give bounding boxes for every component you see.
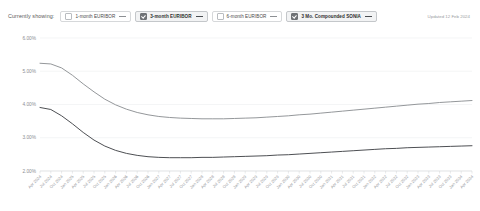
y-axis-tick-label: 3.00% bbox=[22, 135, 36, 140]
series-line-sonia bbox=[40, 63, 472, 119]
checkbox-icon[interactable] bbox=[291, 13, 298, 20]
y-axis-tick-label: 4.00% bbox=[22, 102, 36, 107]
line-swatch-icon bbox=[196, 16, 203, 17]
series-chip-label: 3-month EURIBOR bbox=[150, 14, 191, 19]
y-axis-labels: 6.00%5.00%4.00%3.00%2.00% bbox=[22, 36, 36, 174]
y-axis-tick-label: 6.00% bbox=[22, 36, 36, 41]
line-swatch-icon bbox=[365, 16, 372, 17]
series-chip-6-month-euribor[interactable]: 6-month EURIBOR bbox=[212, 11, 283, 22]
series-chip-label: 1-month EURIBOR bbox=[75, 14, 115, 19]
checkbox-icon[interactable] bbox=[217, 13, 224, 20]
interest-rate-chart-widget: Currently showing: 1-month EURIBOR 3-mon… bbox=[0, 0, 480, 211]
chart-canvas: 6.00%5.00%4.00%3.00%2.00% Apr 2024Jul 20… bbox=[0, 30, 480, 211]
series-toggle-chips: 1-month EURIBOR 3-month EURIBOR 6-month … bbox=[60, 11, 377, 22]
line-swatch-icon bbox=[270, 16, 277, 17]
checkbox-icon[interactable] bbox=[65, 13, 72, 20]
line-swatch-icon bbox=[119, 16, 126, 17]
series-chip-3-month-euribor[interactable]: 3-month EURIBOR bbox=[135, 11, 207, 22]
x-axis-labels: Apr 2024Jul 2024Oct 2024Jan 2025Apr 2025… bbox=[27, 174, 475, 190]
chart-toolbar: Currently showing: 1-month EURIBOR 3-mon… bbox=[0, 0, 480, 32]
series-chip-label: 3 Mo. Compounded SONIA bbox=[301, 14, 361, 19]
y-axis-tick-label: 5.00% bbox=[22, 69, 36, 74]
series-chip-3-mo-compounded-sonia[interactable]: 3 Mo. Compounded SONIA bbox=[286, 11, 377, 22]
x-axis bbox=[40, 171, 472, 174]
series-chip-1-month-euribor[interactable]: 1-month EURIBOR bbox=[60, 11, 131, 22]
line-chart: 6.00%5.00%4.00%3.00%2.00% Apr 2024Jul 20… bbox=[0, 30, 480, 211]
last-updated-text: Updated 12 Feb 2024 bbox=[428, 14, 472, 19]
grid-layer bbox=[40, 38, 472, 171]
series-chip-label: 6-month EURIBOR bbox=[227, 14, 267, 19]
series-layer bbox=[40, 63, 472, 157]
currently-showing-label: Currently showing: bbox=[8, 13, 54, 19]
y-axis-tick-label: 2.00% bbox=[22, 169, 36, 174]
series-line-euribor-3m bbox=[40, 107, 472, 157]
checkbox-icon[interactable] bbox=[140, 13, 147, 20]
